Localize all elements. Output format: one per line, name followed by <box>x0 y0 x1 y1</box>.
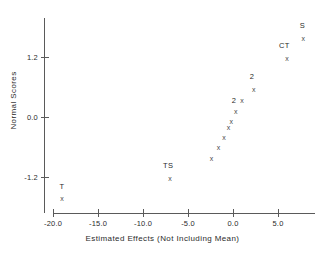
data-point-marker: x <box>227 124 231 131</box>
data-point-marker: x <box>252 86 256 93</box>
y-tick-mark <box>41 177 49 178</box>
x-tick-label: -20.0 <box>44 219 62 228</box>
x-tick-label: 0.0 <box>227 219 238 228</box>
data-point-marker: x <box>240 97 244 104</box>
data-point-marker: x <box>229 118 233 125</box>
point-annotation-label: CT <box>279 42 290 50</box>
point-annotation-label: 2 <box>232 97 236 105</box>
point-annotation-label: T <box>60 183 65 191</box>
x-tick-mark <box>53 209 54 217</box>
x-tick-mark <box>233 209 234 217</box>
point-annotation-label: 2 <box>250 73 254 81</box>
x-tick-mark <box>188 209 189 217</box>
data-point-marker: x <box>210 155 214 162</box>
y-axis-title: Normal Scores <box>9 56 18 146</box>
x-axis-title: Estimated Effects (Not Including Mean) <box>0 234 325 243</box>
x-tick-label: 5.0 <box>272 219 283 228</box>
x-tick-mark <box>98 209 99 217</box>
x-tick-label: -15.0 <box>89 219 107 228</box>
y-axis-line <box>44 18 45 213</box>
data-point-marker: x <box>222 133 226 140</box>
y-tick-label: 0.0 <box>27 113 38 122</box>
y-tick-mark <box>41 57 49 58</box>
data-point-marker: x <box>168 174 172 181</box>
data-point-marker: x <box>285 55 289 62</box>
x-tick-mark <box>143 209 144 217</box>
y-tick-label: -1.2 <box>24 173 38 182</box>
normal-probability-plot: -20.0-15.0-10.0-5.00.05.0 1.20.0-1.2 xxx… <box>0 0 325 254</box>
data-point-marker: x <box>301 35 305 42</box>
data-point-marker: x <box>234 108 238 115</box>
x-tick-label: -10.0 <box>134 219 152 228</box>
x-tick-mark <box>278 209 279 217</box>
x-tick-label: -5.0 <box>181 219 195 228</box>
point-annotation-label: TS <box>163 162 173 170</box>
point-annotation-label: S <box>300 22 305 30</box>
y-tick-label: 1.2 <box>27 53 38 62</box>
x-axis-line <box>53 213 315 214</box>
y-tick-mark <box>41 117 49 118</box>
data-point-marker: x <box>217 144 221 151</box>
data-point-marker: x <box>60 195 64 202</box>
